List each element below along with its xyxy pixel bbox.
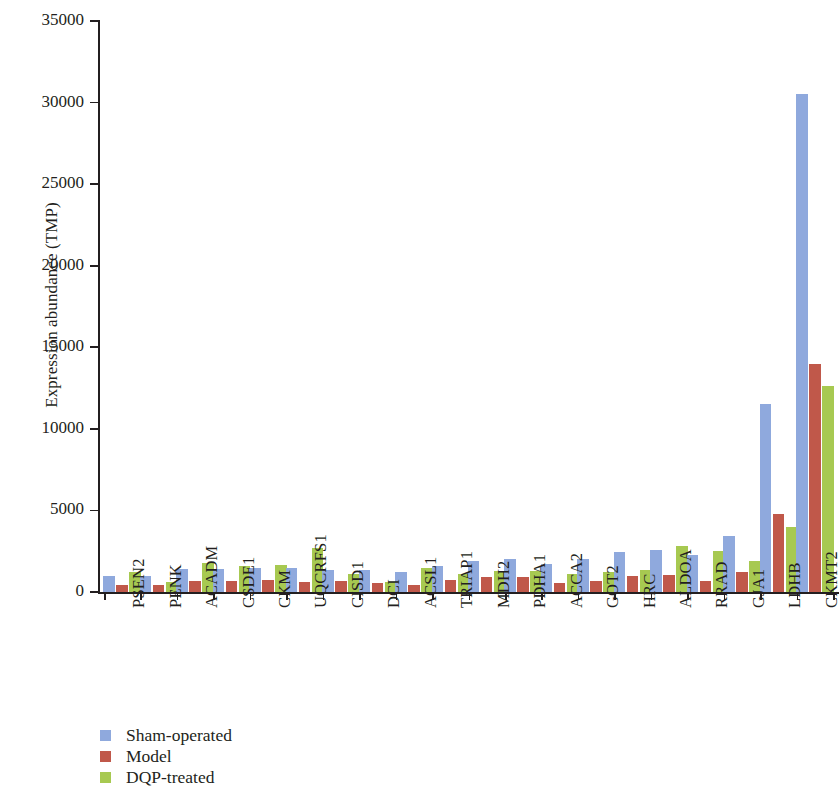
x-axis-tick-label: CKMT2 [822, 551, 839, 608]
bar-group [103, 20, 141, 592]
x-axis-tick-label: MDH2 [494, 560, 514, 608]
bar [481, 577, 493, 592]
legend-item: Model [100, 746, 232, 767]
bar [445, 580, 457, 592]
y-axis-tick-mark [90, 428, 98, 430]
bar [809, 364, 821, 592]
bar [299, 582, 311, 592]
x-axis-tick-label: DCI [384, 579, 404, 608]
y-axis-tick-mark [90, 346, 98, 348]
chart-legend: Sham-operatedModelDQP-treated [100, 725, 232, 787]
bar-chart-figure: Expression abundance (TMP) 3500030000250… [0, 0, 839, 787]
x-axis-tick-mark [104, 592, 106, 600]
legend-label: Model [126, 746, 172, 767]
bar-group [140, 20, 178, 592]
y-axis-tick-label: 5000 [50, 499, 84, 519]
y-axis-tick-mark [90, 20, 98, 22]
bar-group [322, 20, 360, 592]
bar-group [213, 20, 251, 592]
bar-group [504, 20, 542, 592]
legend-item: Sham-operated [100, 725, 232, 746]
x-axis-tick-label: GOT2 [603, 565, 623, 608]
y-axis-tick-mark [90, 183, 98, 185]
bar [773, 514, 785, 592]
bar-group [249, 20, 287, 592]
legend-label: Sham-operated [126, 725, 232, 746]
bar [796, 94, 808, 592]
bar-group [541, 20, 579, 592]
legend-label: DQP-treated [126, 767, 214, 787]
bar [736, 572, 748, 592]
bar-group [687, 20, 725, 592]
x-axis-tick-label: PSEN2 [129, 558, 149, 608]
bar-group [723, 20, 761, 592]
bar [226, 581, 238, 592]
y-axis-tick-label: 35000 [42, 10, 85, 30]
bar-group [468, 20, 506, 592]
bar [517, 577, 529, 592]
y-axis-title: Expression abundance (TMP) [42, 105, 62, 505]
bar [590, 581, 602, 592]
bar-group [796, 20, 834, 592]
bar-group [760, 20, 798, 592]
y-axis-tick-label: 0 [76, 581, 85, 601]
x-axis-tick-label: LDHB [785, 562, 805, 608]
x-axis-tick-label: ACADM [202, 546, 222, 608]
y-axis-tick-mark [90, 591, 98, 593]
y-axis-tick-label: 10000 [42, 418, 85, 438]
bar-group [286, 20, 324, 592]
x-axis-tick-label: CISD1 [348, 561, 368, 608]
legend-swatch [100, 772, 111, 783]
legend-item: DQP-treated [100, 767, 232, 787]
bar-group [650, 20, 688, 592]
y-axis-tick-mark [90, 510, 98, 512]
y-axis-tick-label: 30000 [42, 92, 85, 112]
y-axis-tick-label: 20000 [42, 255, 85, 275]
x-axis-tick-label: PDHA1 [530, 554, 550, 608]
x-axis-tick-label: UQCRFS1 [311, 534, 331, 608]
bar [153, 585, 165, 592]
bar [700, 581, 712, 592]
plot-area: 35000300002500020000150001000050000 [98, 20, 839, 593]
x-axis-tick-label: ACCA2 [567, 553, 587, 608]
bar [760, 404, 772, 592]
bar [103, 576, 115, 592]
x-axis-tick-label: GJA1 [749, 569, 769, 608]
x-axis-tick-label: CKM [275, 570, 295, 608]
bar-group [395, 20, 433, 592]
x-axis-tick-label: HRC [640, 573, 660, 608]
bar [335, 581, 347, 592]
x-axis-tick-label: CSDE1 [239, 557, 259, 608]
legend-swatch [100, 730, 111, 741]
bar-group [614, 20, 652, 592]
x-axis-tick-label: RRAD [712, 561, 732, 608]
y-axis-line [98, 20, 100, 593]
x-axis-tick-label: TRIAP1 [457, 551, 477, 608]
bar-group [176, 20, 214, 592]
x-axis-tick-label: ALDOA [676, 549, 696, 608]
bar [627, 576, 639, 592]
y-axis-tick-label: 15000 [42, 336, 85, 356]
x-axis-tick-label: PENK [166, 564, 186, 608]
legend-swatch [100, 751, 111, 762]
bar [554, 583, 566, 592]
bar [262, 580, 274, 592]
y-axis-tick-label: 25000 [42, 173, 85, 193]
bar [189, 581, 201, 592]
x-axis-tick-label: ACSL1 [421, 557, 441, 608]
bar [372, 583, 384, 592]
bar-group [359, 20, 397, 592]
bar [116, 585, 128, 592]
bar-group [577, 20, 615, 592]
bar-group [432, 20, 470, 592]
bar [408, 585, 420, 592]
bar [663, 575, 675, 592]
y-axis-tick-mark [90, 265, 98, 267]
y-axis-tick-mark [90, 102, 98, 104]
